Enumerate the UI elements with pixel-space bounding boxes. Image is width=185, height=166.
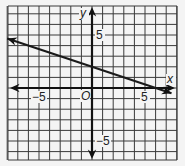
axes — [10, 7, 175, 159]
x-axis-label: x — [166, 72, 174, 86]
y-tick-label: −5 — [96, 134, 110, 148]
origin-label: O — [81, 89, 90, 103]
y-axis-label: y — [79, 6, 87, 20]
x-tick-label: 5 — [141, 90, 148, 104]
y-tick-label: 5 — [96, 28, 103, 42]
x-tick-label: −5 — [32, 90, 46, 104]
coordinate-plane: yxO−555−5 — [0, 0, 185, 166]
